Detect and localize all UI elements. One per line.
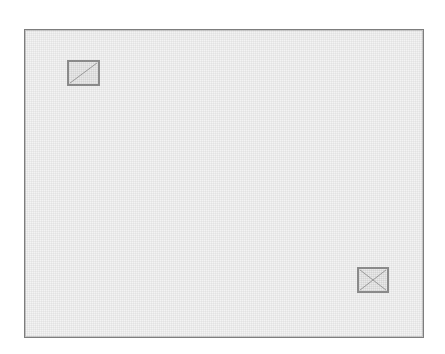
- marker-box-bottom-right[interactable]: [357, 267, 389, 293]
- marker-box-top-left[interactable]: [67, 60, 100, 86]
- diagonal-slash-box-icon: [69, 62, 98, 84]
- x-cross-box-icon: [359, 269, 387, 291]
- drawing-frame: [24, 29, 424, 338]
- drawing-canvas: [0, 0, 445, 354]
